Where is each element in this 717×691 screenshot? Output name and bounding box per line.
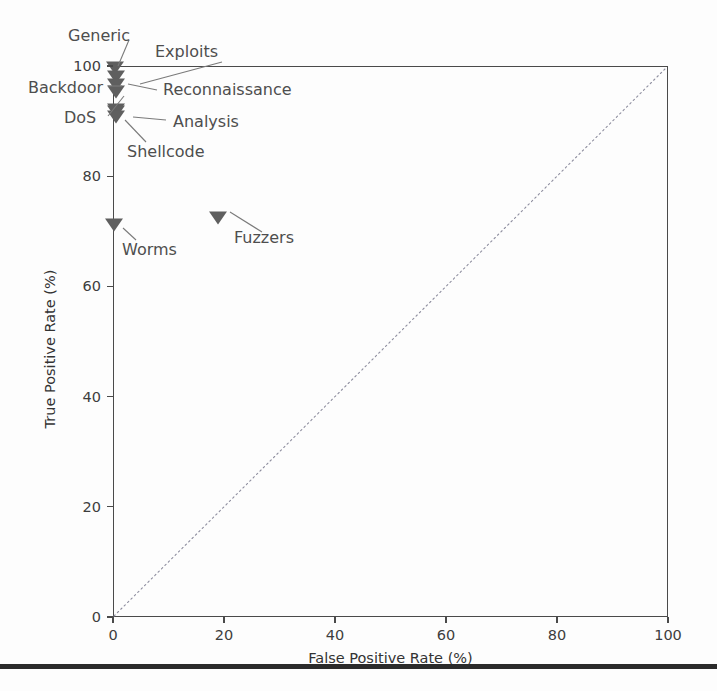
annotation-backdoor: Backdoor — [28, 78, 103, 97]
y-tick — [107, 286, 113, 287]
y-tick-label: 80 — [49, 168, 101, 184]
data-point-shellcode — [107, 110, 125, 123]
x-tick-label: 20 — [215, 627, 233, 643]
x-tick — [112, 617, 113, 623]
y-tick-label: 100 — [49, 58, 101, 74]
y-tick — [107, 506, 113, 507]
y-tick — [107, 176, 113, 177]
x-tick-label: 80 — [548, 627, 566, 643]
y-tick — [107, 616, 113, 617]
y-tick — [107, 65, 113, 66]
annotation-analysis: Analysis — [173, 112, 239, 131]
annotation-shellcode: Shellcode — [127, 142, 205, 161]
y-tick-label: 0 — [49, 609, 101, 625]
data-point-backdoor — [107, 86, 125, 99]
annotation-generic: Generic — [68, 26, 130, 45]
x-tick — [334, 617, 335, 623]
annotation-reconnaissance: Reconnaissance — [163, 80, 292, 99]
y-tick — [107, 396, 113, 397]
y-axis-title: True Positive Rate (%) — [42, 249, 58, 449]
annotation-exploits: Exploits — [155, 42, 218, 61]
x-tick-label: 100 — [654, 627, 682, 643]
annotation-worms: Worms — [122, 240, 177, 259]
x-tick — [223, 617, 224, 623]
annotation-fuzzers: Fuzzers — [234, 228, 294, 247]
x-tick — [556, 617, 557, 623]
scan-artifact-bar — [0, 664, 717, 669]
x-tick-label: 0 — [108, 627, 117, 643]
x-tick — [445, 617, 446, 623]
data-point-worms — [105, 218, 123, 231]
annotation-dos: DoS — [64, 108, 96, 127]
data-point-fuzzers — [209, 212, 227, 225]
y-tick-label: 20 — [49, 499, 101, 515]
chart-page: 020406080100020406080100 Generic Exploit… — [0, 0, 717, 691]
x-tick-label: 60 — [437, 627, 455, 643]
x-tick — [667, 617, 668, 623]
x-tick-label: 40 — [326, 627, 344, 643]
